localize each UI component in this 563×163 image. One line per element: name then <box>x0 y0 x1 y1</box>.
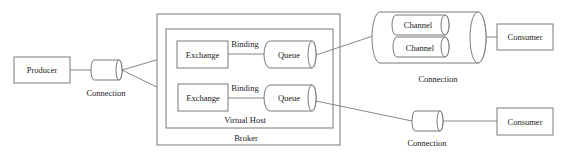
queue-node-1: Queue <box>264 41 316 68</box>
consumer-node-2: Consumer <box>497 108 553 135</box>
broker-label: Broker <box>234 133 258 143</box>
channel-label: Channel <box>404 20 433 30</box>
multi-channel-connection-label: Connection <box>418 74 458 84</box>
single-connection-label: Connection <box>407 138 447 148</box>
single-connection-cylinder: Connection <box>407 111 447 148</box>
producer-connection-cylinder: Connection <box>86 60 126 98</box>
queue-node-2: Queue <box>264 85 316 111</box>
exchange-node-1: Exchange <box>177 41 228 68</box>
consumer-label: Consumer <box>508 32 543 42</box>
multi-channel-connection-cylinder: Channel Channel Connection <box>372 12 486 84</box>
channel-label: Channel <box>406 43 435 53</box>
channel-2: Channel <box>393 37 449 57</box>
producer-label: Producer <box>27 65 58 75</box>
producer-connection-label: Connection <box>86 88 126 98</box>
consumer-label: Consumer <box>508 117 543 127</box>
channel-1: Channel <box>392 15 449 35</box>
virtual-host-label: Virtual Host <box>224 115 266 125</box>
rabbitmq-architecture-diagram: Producer Connection Broker Virtual Host … <box>0 0 563 163</box>
queue-label: Queue <box>278 93 300 103</box>
binding-label-1: Binding <box>231 39 259 49</box>
exchange-label: Exchange <box>186 50 220 60</box>
exchange-label: Exchange <box>186 93 220 103</box>
consumer-node-1: Consumer <box>497 24 553 50</box>
producer-node: Producer <box>14 57 70 83</box>
queue-label: Queue <box>278 50 300 60</box>
binding-label-2: Binding <box>231 83 259 93</box>
exchange-node-2: Exchange <box>178 84 228 111</box>
